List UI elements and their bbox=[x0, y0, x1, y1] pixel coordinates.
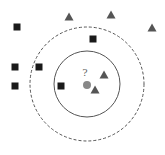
square-point bbox=[58, 83, 65, 90]
square-point bbox=[12, 83, 19, 90]
square-point bbox=[14, 24, 21, 31]
triangle-point bbox=[100, 71, 109, 79]
triangle-point bbox=[65, 13, 74, 21]
square-point bbox=[12, 64, 19, 71]
query-point bbox=[83, 81, 91, 89]
triangle-point bbox=[91, 86, 100, 94]
square-point bbox=[90, 36, 97, 43]
triangle-point bbox=[107, 11, 116, 19]
query-label: ? bbox=[82, 67, 87, 78]
triangle-point bbox=[148, 24, 157, 32]
knn-diagram: ? bbox=[0, 0, 165, 155]
square-point bbox=[36, 64, 43, 71]
